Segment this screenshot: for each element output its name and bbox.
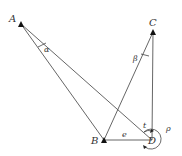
label-alpha: α (44, 45, 50, 54)
point-c-marker-icon (150, 29, 156, 35)
label-d: D (147, 135, 156, 146)
label-e: e (122, 130, 127, 139)
label-t: t (143, 121, 147, 130)
rho-arrow-icon (143, 145, 147, 149)
segment-ad (21, 24, 152, 140)
label-b: B (90, 135, 98, 146)
label-c: C (149, 17, 157, 28)
segment-cd (152, 32, 153, 140)
label-rho: ρ (165, 124, 171, 133)
label-beta: β (132, 54, 138, 63)
geometry-diagram: A C B D α β e t ρ (0, 0, 182, 156)
point-a-marker-icon (18, 21, 24, 27)
label-a: A (8, 13, 16, 24)
segment-ab (21, 24, 104, 140)
